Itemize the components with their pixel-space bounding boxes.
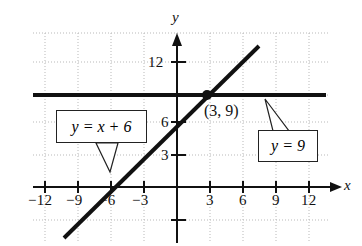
x-axis-label: x [344, 178, 351, 193]
y-tick-label-6: 6 [161, 115, 169, 130]
coordinate-plane [0, 0, 362, 246]
x-tick-label--6: −6 [99, 193, 116, 208]
x-tick-label-6: 6 [239, 193, 247, 208]
x-tick-label--3: −3 [132, 193, 149, 208]
y-axis-label: y [172, 10, 179, 25]
intersection-point-label: (3, 9) [204, 103, 239, 119]
x-tick-label-12: 12 [301, 193, 317, 208]
leader-line-x-plus-6 [96, 143, 118, 172]
callout-y-equals-9: y = 9 [258, 130, 318, 162]
x-axis-arrowhead [330, 182, 342, 192]
y-axis-arrowhead [172, 33, 182, 46]
graph-figure: −12 −9 −6 −3 3 6 9 12 12 6 3 y x (3, 9) … [0, 0, 362, 246]
x-tick-label-9: 9 [272, 193, 280, 208]
x-tick-label--12: −12 [28, 193, 52, 208]
callout-y-equals-9-text: y = 9 [271, 137, 305, 155]
y-tick-label-12: 12 [148, 55, 164, 70]
leader-line-y-equals-9 [265, 99, 289, 131]
callout-y-equals-x-plus-6: y = x + 6 [56, 110, 147, 143]
x-tick-label--9: −9 [66, 193, 83, 208]
callout-y-equals-x-plus-6-text: y = x + 6 [72, 118, 132, 136]
x-tick-label-3: 3 [206, 193, 214, 208]
y-tick-label-3: 3 [161, 148, 169, 163]
intersection-point-marker [202, 90, 212, 100]
